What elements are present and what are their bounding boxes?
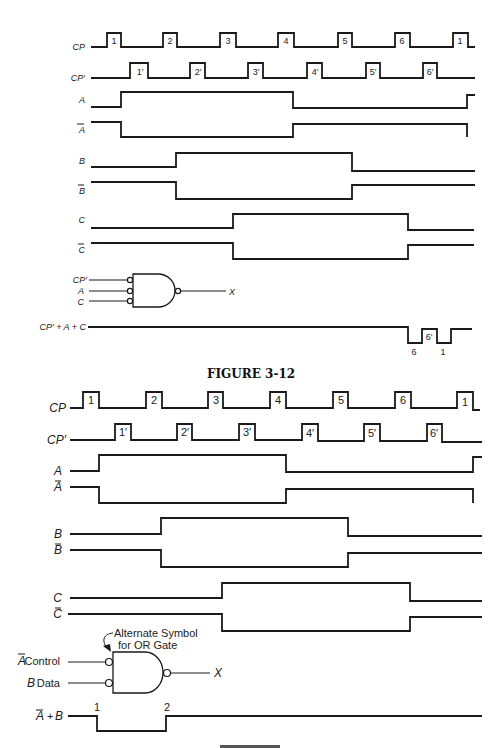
- waveform-cp: CP 1 2 3 4 5 6 1: [72, 33, 475, 52]
- waveform-b-bar: B: [78, 182, 475, 199]
- pulse-label: 5′: [370, 67, 377, 77]
- pulse-label: 2: [167, 36, 172, 46]
- output-bubble: [175, 288, 180, 293]
- figure-2: CP 1 2 3 4 5 6 1 CP′ 1′ 2′ 3′ 4′ 5′ 6′ A: [17, 392, 482, 748]
- result-label-a: A: [35, 709, 44, 723]
- pulse-label: 6′: [426, 332, 433, 342]
- signal-label-a: A: [53, 464, 62, 478]
- gate-input-role: Control: [25, 655, 60, 667]
- gate-input-label: C: [78, 297, 85, 307]
- waveform-c-bar: C: [78, 243, 474, 259]
- result-label: CP′ + A + C: [39, 322, 86, 332]
- pulse-label: 1: [457, 36, 462, 46]
- waveform-cp-prime: CP′ 1′ 2′ 3′ 4′ 5′ 6′: [47, 424, 482, 447]
- pulse-label: 3: [225, 36, 230, 46]
- output-bubble: [164, 670, 171, 677]
- alternate-or-gate: Control A Data B X: [17, 652, 223, 693]
- waveform-result-1: CP′ + A + C 6 6′ 1: [39, 322, 472, 357]
- pulse-label: 6′: [430, 427, 438, 439]
- annotation-line-1: Alternate Symbol: [114, 627, 198, 639]
- pulse-label: 5: [338, 394, 344, 406]
- signal-label-b: B: [79, 156, 85, 166]
- pulse-label: 6: [400, 394, 406, 406]
- gate-input-signal: B: [27, 676, 35, 690]
- result-label-b: B: [55, 709, 63, 723]
- waveform-cp: CP 1 2 3 4 5 6 1: [49, 392, 480, 415]
- signal-label-c: C: [53, 591, 62, 605]
- waveform-a-bar: A: [77, 122, 467, 137]
- inversion-bubble: [127, 277, 132, 282]
- pulse-label: 2′: [181, 426, 189, 438]
- inversion-bubble: [106, 680, 113, 687]
- signal-label-c: C: [79, 215, 86, 225]
- inversion-bubble: [127, 288, 132, 293]
- pulse-label: 2: [151, 394, 157, 406]
- waveform-a-bar: A: [53, 480, 473, 503]
- gate-input-label: CP′: [73, 275, 88, 285]
- signal-label-a-bar: A: [53, 480, 62, 494]
- gate-input-label: A: [77, 286, 84, 296]
- timing-diagrams: CP 1 2 3 4 5 6 1 CP′ 1′ 2′ 3′ 4′ 5′ 6′ A: [0, 0, 502, 748]
- gate-body: [133, 274, 175, 307]
- pulse-label: 1′: [137, 67, 144, 77]
- waveform-b-bar: B: [54, 543, 482, 567]
- waveform-a: A: [53, 455, 482, 478]
- signal-label-b: B: [54, 527, 62, 541]
- waveform-c: C: [53, 583, 482, 605]
- pulse-label: 6′: [427, 67, 434, 77]
- pulse-label: 1: [88, 394, 94, 406]
- pulse-label: 4: [283, 36, 288, 46]
- gate-output-label: X: [213, 666, 223, 680]
- inversion-bubble: [127, 298, 132, 303]
- waveform-result-2: A + B 1 2: [35, 701, 482, 731]
- edge-label: 1: [94, 701, 100, 713]
- inversion-bubble: [106, 659, 113, 666]
- figure-caption: FIGURE 3-12: [207, 367, 295, 381]
- pulse-label: 5: [342, 36, 347, 46]
- signal-label-a-bar: A: [78, 125, 85, 135]
- pulse-label: 4′: [312, 67, 319, 77]
- gate-output-label: X: [228, 287, 236, 297]
- signal-label-cp: CP: [72, 42, 85, 52]
- pulse-label: 1: [440, 347, 445, 357]
- pulse-label: 3′: [243, 426, 251, 438]
- gate-annotation: Alternate Symbol for OR Gate: [103, 627, 198, 652]
- figure-3-12: CP 1 2 3 4 5 6 1 CP′ 1′ 2′ 3′ 4′ 5′ 6′ A: [39, 33, 475, 381]
- edge-label: 2: [164, 701, 170, 713]
- gate-body: [113, 652, 163, 693]
- signal-label-cp-prime: CP′: [47, 433, 67, 447]
- pulse-label: 3: [213, 394, 219, 406]
- waveform-a: A: [78, 92, 475, 108]
- pulse-label: 1: [111, 36, 116, 46]
- signal-label-cp: CP: [49, 401, 66, 415]
- signal-label-cp-prime: CP′: [71, 73, 86, 83]
- pulse-label: 6: [411, 347, 416, 357]
- arrowhead-icon: [103, 644, 111, 652]
- pulse-label: 4: [275, 394, 281, 406]
- signal-label-a: A: [78, 95, 85, 105]
- waveform-c: C: [79, 214, 475, 230]
- pulse-label: 4′: [306, 427, 314, 439]
- signal-label-b-bar: B: [54, 543, 62, 557]
- signal-label-c-bar: C: [53, 607, 62, 621]
- signal-label-c-bar: C: [79, 245, 86, 255]
- pulse-label: 2′: [195, 67, 202, 77]
- waveform-b: B: [54, 518, 482, 541]
- result-label-plus: +: [47, 710, 53, 722]
- gate-input-signal: A: [17, 654, 26, 668]
- waveform-b: B: [79, 153, 475, 171]
- gate-input-role: Data: [37, 677, 61, 689]
- pulse-label: 6: [399, 36, 404, 46]
- waveform-cp-prime: CP′ 1′ 2′ 3′ 4′ 5′ 6′: [71, 63, 475, 83]
- pulse-label: 1′: [119, 426, 127, 438]
- pulse-label: 3′: [253, 67, 260, 77]
- annotation-line-2: for OR Gate: [118, 639, 177, 651]
- nand-gate-inverted-inputs: CP′ A C X: [73, 274, 236, 307]
- pulse-label: 1: [462, 396, 468, 408]
- signal-label-b-bar: B: [79, 186, 85, 196]
- pulse-label: 5′: [368, 427, 376, 439]
